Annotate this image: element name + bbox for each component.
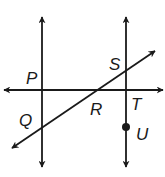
label-P: P — [26, 69, 38, 88]
label-T: T — [131, 95, 143, 114]
label-Q: Q — [19, 111, 32, 130]
geometry-diagram: P S Q R T U — [0, 0, 165, 177]
label-S: S — [109, 55, 121, 74]
point-U-dot — [122, 123, 130, 131]
label-U: U — [136, 125, 149, 144]
label-R: R — [90, 100, 102, 119]
